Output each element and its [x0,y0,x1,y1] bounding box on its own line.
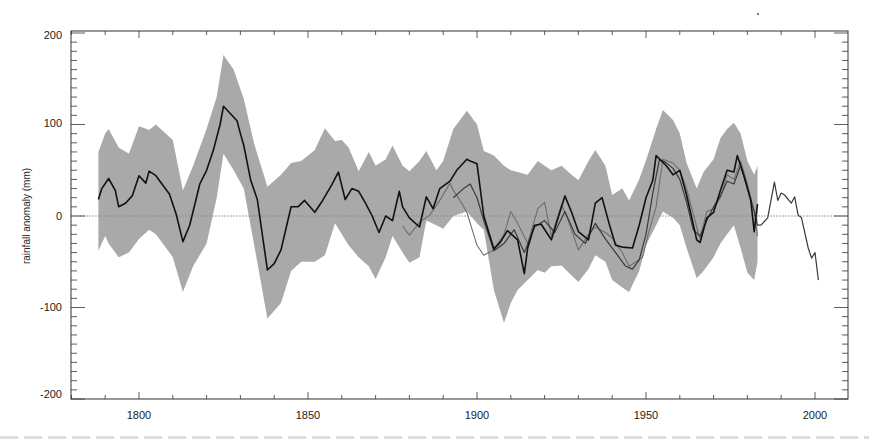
x-tick-label: 1900 [465,409,489,421]
x-tick-labels: 1800 1850 1900 1950 2000 [127,409,827,421]
x-tick-label: 1800 [127,409,151,421]
figure-caption-cropped [0,432,869,439]
y-tick-label: -100 [40,301,62,313]
x-tick-label: 2000 [803,409,827,421]
y-axis-title: rainfall anomaly (mm) [21,168,32,264]
x-tick-label: 1950 [634,409,658,421]
y-tick-label: 0 [56,210,62,222]
y-tick-label: 200 [44,29,62,41]
rainfall-anomaly-chart: 200 100 0 -100 -200 1800 1850 1900 1950 … [0,0,869,439]
stray-dot [757,13,759,15]
y-tick-label: 100 [44,117,62,129]
x-tick-label: 1850 [296,409,320,421]
y-tick-label: -200 [40,388,62,400]
y-tick-labels: 200 100 0 -100 -200 [40,29,62,400]
